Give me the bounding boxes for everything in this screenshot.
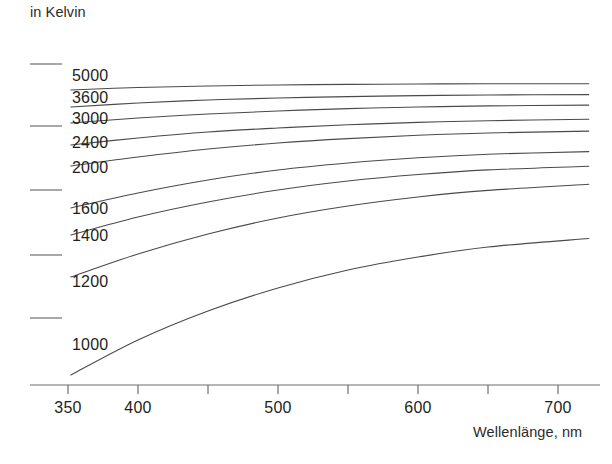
curve-label-3000: 3000 <box>72 111 108 127</box>
curve-label-3600: 3600 <box>72 90 108 106</box>
curve-label-2000: 2000 <box>72 160 108 176</box>
x-axis-tick-label-350: 350 <box>54 400 81 416</box>
curve-label-1400: 1400 <box>72 228 108 244</box>
curve-label-2400: 2400 <box>72 135 108 151</box>
curve-label-5000: 5000 <box>72 68 108 84</box>
curve-2000 <box>71 131 589 166</box>
x-axis-tick-label-600: 600 <box>404 400 431 416</box>
chart-container: in Kelvin 500036003000240020001600140012… <box>0 0 612 464</box>
curve-1400 <box>71 166 589 235</box>
curve-3600 <box>71 95 589 107</box>
x-axis-tick-label-400: 400 <box>124 400 151 416</box>
curve-label-1200: 1200 <box>72 274 108 290</box>
curve-1000 <box>71 239 589 376</box>
x-axis-title: Wellenlänge, nm <box>473 424 582 440</box>
x-axis-tick-label-700: 700 <box>544 400 571 416</box>
y-axis-tick-group <box>30 64 62 318</box>
curve-group <box>71 84 589 375</box>
x-axis-tick-label-500: 500 <box>264 400 291 416</box>
curve-label-1000: 1000 <box>72 337 108 353</box>
curve-5000 <box>71 84 589 90</box>
curve-label-1600: 1600 <box>72 201 108 217</box>
x-axis-group <box>30 385 600 394</box>
curve-1600 <box>71 152 589 208</box>
curve-1200 <box>71 184 589 277</box>
